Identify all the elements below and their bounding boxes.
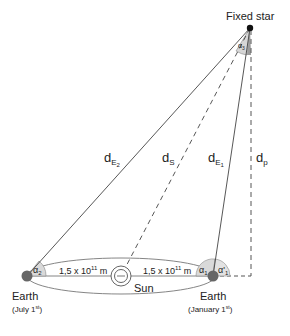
fixed-star-label: Fixed star: [226, 10, 275, 22]
distance-left-label: 1,5 x 1011 m: [59, 265, 107, 276]
earth-right-label: Earth: [200, 290, 226, 302]
earth-right-icon: [208, 271, 219, 282]
dE2-line: [27, 28, 250, 276]
fixed-star-icon: [247, 25, 253, 31]
dS-line: [121, 28, 250, 276]
earth-left-date: (July 1st): [12, 304, 42, 314]
dp-label: dp: [256, 150, 268, 167]
dE1-label: dE1: [208, 150, 225, 168]
earth-left-label: Earth: [12, 290, 38, 302]
dS-label: dS: [162, 150, 175, 167]
sun-icon: [111, 266, 131, 286]
earth-left-icon: [22, 271, 33, 282]
dE1-line: [213, 28, 250, 276]
sun-label: Sun: [134, 282, 154, 294]
distance-right-label: 1,5 x 1011 m: [143, 265, 191, 276]
parallax-diagram: Fixed star α3 dE2 dS dE1 dp α2 α1 α'1 1,…: [0, 0, 290, 336]
dE2-label: dE2: [104, 150, 121, 168]
earth-right-date: (January 1st): [188, 304, 233, 314]
